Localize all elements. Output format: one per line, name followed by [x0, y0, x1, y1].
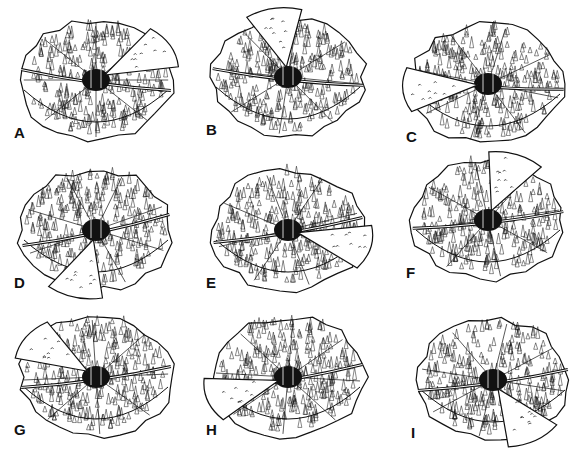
panel-label: I	[411, 424, 415, 441]
forest-plot-illustration	[200, 5, 375, 153]
dark-core	[82, 219, 110, 241]
dark-core	[274, 66, 302, 88]
dark-core	[82, 69, 110, 91]
forest-plot-illustration	[8, 305, 183, 452]
forest-plot-illustration	[8, 8, 183, 156]
forest-plot-illustration	[200, 305, 375, 452]
dark-core	[274, 219, 302, 241]
forest-plot-panel-b: B	[200, 5, 375, 153]
forest-plot-panel-g: G	[8, 305, 183, 452]
forest-plot-panel-h: H	[200, 305, 375, 452]
panel-label: B	[206, 121, 217, 138]
forest-plot-illustration	[400, 148, 575, 296]
panel-label: E	[206, 274, 216, 291]
panel-label: H	[206, 421, 217, 438]
forest-plot-panel-i: I	[405, 308, 580, 452]
forest-plot-panel-a: A	[8, 8, 183, 156]
panel-label: F	[406, 264, 415, 281]
forest-plot-panel-c: C	[400, 12, 575, 160]
forest-plot-illustration	[405, 308, 580, 452]
panel-label: A	[14, 124, 25, 141]
forest-plot-illustration	[400, 12, 575, 160]
forest-plot-illustration	[8, 158, 183, 306]
dark-core	[479, 369, 507, 391]
forest-plot-panel-d: D	[8, 158, 183, 306]
dark-core	[474, 209, 502, 231]
panel-label: D	[14, 274, 25, 291]
forest-plot-panel-e: E	[200, 158, 375, 306]
forest-plot-illustration	[200, 158, 375, 306]
dark-core	[474, 73, 502, 95]
panel-label: G	[14, 421, 26, 438]
dark-core	[274, 366, 302, 388]
forest-plot-panel-f: F	[400, 148, 575, 296]
panel-label: C	[406, 128, 417, 145]
